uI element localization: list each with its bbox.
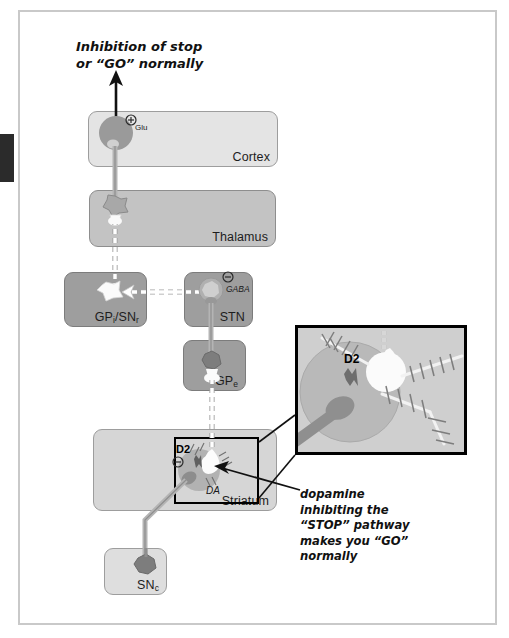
region-label-gpi-snr: GPi/SNr [95,310,139,324]
figure-title: Inhibition of stop or “GO” normally [76,38,296,72]
region-label-gpe: GPe [215,374,238,388]
region-label-snc: SNc [137,578,159,592]
label-glu: Glu [135,123,147,132]
inset-illustration [298,328,464,452]
region-box-stn[interactable]: STN [184,272,253,327]
caption-line-5: normally [300,549,460,565]
caption-line-1: dopamine [300,487,460,503]
page-edge-artifact [0,134,14,182]
label-da: DA [206,485,220,496]
caption-line-2: inhibiting the [300,503,460,519]
figure-title-line-1: Inhibition of stop [76,38,296,55]
caption-line-4: makes you “GO” [300,534,460,550]
label-d2-striatum: D2 [176,443,190,455]
region-box-gpi-snr[interactable]: GPi/SNr [64,272,147,327]
label-gaba: GABA [226,284,250,294]
region-box-cortex[interactable]: Cortex [88,111,278,167]
region-label-cortex: Cortex [233,150,270,164]
figure-caption: dopamine inhibiting the “STOP” pathway m… [300,487,460,565]
figure-title-line-2: or “GO” normally [76,55,296,72]
region-label-stn: STN [220,310,245,324]
region-label-thalamus: Thalamus [212,230,268,244]
caption-line-3: “STOP” pathway [300,518,460,534]
region-box-snc[interactable]: SNc [104,548,167,595]
figure-canvas: Inhibition of stop or “GO” normally Cort… [0,0,509,638]
magnified-inset-panel[interactable]: D2 [295,325,467,455]
region-box-thalamus[interactable]: Thalamus [89,190,276,247]
region-box-gpe[interactable]: GPe [183,340,246,391]
inset-label-d2: D2 [344,352,359,366]
